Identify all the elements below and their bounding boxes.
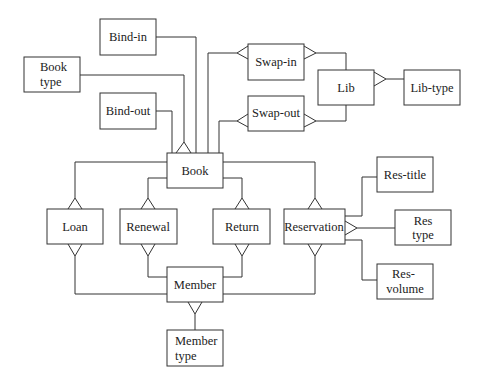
entity-label-line1: Res bbox=[414, 214, 433, 228]
entity-label-line1: Res- bbox=[392, 267, 415, 281]
entity-label: Renewal bbox=[126, 220, 170, 234]
entity-member-type: Member type bbox=[167, 330, 223, 366]
entity-bind-in: Bind-in bbox=[100, 19, 156, 55]
crowfoot-membertype-member bbox=[188, 302, 202, 314]
crowfoot-book-swapin bbox=[237, 46, 248, 59]
crowfoot-member-loan bbox=[68, 244, 82, 256]
entity-label-line2: type bbox=[40, 75, 62, 89]
entity-label-line1: Book bbox=[40, 60, 68, 74]
crowfoot-lib-swapin bbox=[304, 46, 316, 59]
entity-book-type: Book type bbox=[24, 57, 80, 92]
entity-lib: Lib bbox=[318, 70, 374, 105]
crowfoot-libtype-lib bbox=[374, 72, 386, 86]
entity-label: Member bbox=[174, 278, 217, 292]
rel-member-reservation bbox=[223, 256, 315, 294]
crowfoot-booktype-book bbox=[176, 142, 191, 153]
rel-member-return bbox=[223, 256, 242, 277]
entity-label-line1: Member bbox=[175, 334, 218, 348]
crowfoot-member-renewal bbox=[141, 244, 155, 256]
entity-loan: Loan bbox=[47, 209, 103, 244]
entity-reservation: Reservation bbox=[284, 209, 345, 244]
entity-label: Reservation bbox=[284, 220, 344, 234]
entity-member: Member bbox=[167, 267, 223, 302]
rel-resvolume-reservation bbox=[345, 240, 377, 280]
entity-return: Return bbox=[213, 209, 270, 244]
entity-label: Swap-in bbox=[255, 55, 297, 69]
entity-label-line2: volume bbox=[386, 282, 424, 296]
rel-book-return bbox=[223, 178, 242, 198]
crowfoot-member-reservation bbox=[308, 244, 322, 256]
entity-res-volume: Res- volume bbox=[377, 264, 433, 299]
entity-label: Return bbox=[225, 220, 260, 234]
rel-member-renewal bbox=[148, 256, 167, 277]
entity-label: Lib-type bbox=[410, 81, 453, 95]
entity-label-line2: type bbox=[412, 228, 434, 242]
rel-book-renewal bbox=[148, 178, 167, 198]
entity-res-title: Res-title bbox=[377, 157, 433, 192]
rel-book-swapout bbox=[219, 121, 237, 153]
rel-lib-swapin bbox=[316, 53, 346, 70]
entity-label-line2: type bbox=[175, 349, 197, 363]
crowfoot-book-reservation bbox=[308, 198, 322, 209]
entity-res-type: Res type bbox=[395, 210, 451, 245]
rel-book-swapin bbox=[208, 53, 237, 153]
crowfoot-member-return bbox=[235, 244, 249, 256]
entity-label: Bind-out bbox=[106, 104, 151, 118]
entity-label: Lib bbox=[337, 81, 354, 95]
entity-book: Book bbox=[167, 153, 223, 188]
crowfoot-lib-swapout bbox=[304, 114, 316, 127]
er-diagram: Bind-in Book type Bind-out Swap-in Swap-… bbox=[0, 0, 485, 391]
crowfoot-book-swapout bbox=[237, 114, 248, 127]
rel-lib-swapout bbox=[316, 105, 346, 121]
entity-label: Res-title bbox=[384, 168, 427, 182]
rel-member-loan bbox=[75, 256, 167, 294]
entity-label: Bind-in bbox=[109, 30, 148, 44]
entity-renewal: Renewal bbox=[120, 209, 177, 244]
entity-swap-in: Swap-in bbox=[248, 44, 304, 80]
rel-book-loan bbox=[75, 162, 167, 198]
entity-swap-out: Swap-out bbox=[248, 96, 304, 131]
crowfoot-book-return bbox=[235, 198, 249, 209]
entity-label: Swap-out bbox=[252, 106, 300, 120]
entity-label: Loan bbox=[62, 220, 88, 234]
crowfoot-book-loan bbox=[68, 198, 82, 209]
entity-bind-out: Bind-out bbox=[100, 93, 156, 129]
rel-bindout-book bbox=[156, 111, 172, 153]
rel-book-reservation bbox=[223, 162, 315, 198]
crowfoot-restype-reservation bbox=[345, 221, 357, 235]
entity-lib-type: Lib-type bbox=[404, 70, 460, 105]
rel-bindin-book bbox=[156, 37, 196, 153]
rel-restitle-reservation bbox=[345, 177, 377, 216]
entity-label: Book bbox=[181, 164, 209, 178]
crowfoot-book-renewal bbox=[141, 198, 155, 209]
